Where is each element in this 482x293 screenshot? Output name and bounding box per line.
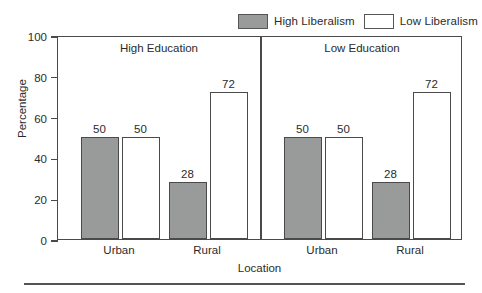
legend-swatch-high-liberalism-icon	[238, 14, 268, 29]
y-axis-tick-label-80: 80	[34, 72, 47, 84]
x-axis-label-urban-0: Urban	[103, 244, 134, 256]
footer-divider	[24, 283, 465, 285]
bar-value-label: 50	[93, 123, 106, 135]
y-axis-tick-label-40: 40	[34, 153, 47, 165]
y-axis-tick-80: 80	[51, 77, 58, 78]
bar-value-label: 28	[181, 168, 194, 180]
y-axis-tick-label-0: 0	[41, 235, 47, 247]
bar-high-education-urban-high-liberalism: 50	[81, 137, 119, 239]
x-axis-label-rural-0: Rural	[193, 244, 220, 256]
bar-high-education-rural-low-liberalism: 72	[210, 92, 248, 239]
y-axis-tick-20: 20	[51, 200, 58, 201]
legend-label-high-liberalism: High Liberalism	[274, 15, 355, 27]
legend-entry-low-liberalism: Low Liberalism	[364, 14, 478, 29]
x-axis-label-rural-1: Rural	[396, 244, 423, 256]
y-axis-tick-100: 100	[51, 36, 58, 37]
bar-value-label: 50	[296, 123, 309, 135]
chart-legend: High Liberalism Low Liberalism	[238, 11, 476, 31]
y-axis-tick-label-60: 60	[34, 113, 47, 125]
y-axis-tick-60: 60	[51, 118, 58, 119]
bar-low-education-urban-high-liberalism: 50	[284, 137, 322, 239]
x-axis-tick-labels: UrbanRuralUrbanRural	[57, 244, 462, 260]
y-axis-tick-0: 0	[51, 240, 58, 241]
bar-value-label: 28	[384, 168, 397, 180]
panel-bars-low-education: 50502872	[261, 37, 463, 239]
x-axis-label-urban-1: Urban	[306, 244, 337, 256]
bar-value-label: 72	[222, 78, 235, 90]
y-axis-tick-label-100: 100	[28, 31, 47, 43]
bar-low-education-rural-low-liberalism: 72	[413, 92, 451, 239]
y-axis-title: Percentage	[16, 79, 28, 138]
panel-bars-high-education: 50502872	[58, 37, 260, 239]
bar-high-education-urban-low-liberalism: 50	[122, 137, 160, 239]
bar-value-label: 50	[134, 123, 147, 135]
y-axis-tick-40: 40	[51, 159, 58, 160]
bar-value-label: 50	[337, 123, 350, 135]
bar-high-education-rural-high-liberalism: 28	[169, 182, 207, 239]
plot-area: High Education Low Education 02040608010…	[57, 36, 462, 240]
legend-swatch-low-liberalism-icon	[364, 14, 394, 29]
legend-entry-high-liberalism: High Liberalism	[238, 14, 355, 29]
legend-label-low-liberalism: Low Liberalism	[400, 15, 478, 27]
x-axis-title: Location	[57, 262, 462, 274]
y-axis-tick-label-20: 20	[34, 194, 47, 206]
bar-value-label: 72	[425, 78, 438, 90]
bar-low-education-urban-low-liberalism: 50	[325, 137, 363, 239]
bar-low-education-rural-high-liberalism: 28	[372, 182, 410, 239]
